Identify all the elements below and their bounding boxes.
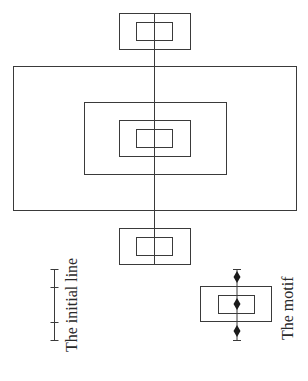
initial-line-label: The initial line xyxy=(63,258,80,352)
motif-figure xyxy=(201,269,272,341)
diamond-marker xyxy=(234,298,241,310)
diamond-marker xyxy=(234,271,241,283)
initial-line-figure xyxy=(51,269,59,341)
motif-label: The motif xyxy=(279,276,296,340)
diamond-marker xyxy=(234,325,241,337)
middle-rect xyxy=(85,103,227,175)
diagram-canvas: The initial line The motif xyxy=(0,0,308,381)
